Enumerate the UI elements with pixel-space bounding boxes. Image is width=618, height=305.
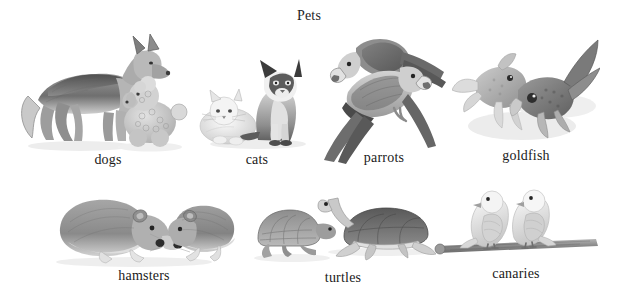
canaries-illustration [430,186,602,266]
pet-label-cats: cats [198,152,316,168]
pet-group-parrots: parrots [316,28,452,164]
turtles-illustration [248,190,438,270]
cats-illustration [198,44,316,156]
pets-illustration-board: Pets [0,0,618,305]
pet-label-dogs: dogs [18,152,198,168]
pet-label-turtles: turtles [248,270,438,286]
pet-label-parrots: parrots [316,150,452,166]
hamsters-illustration [48,186,240,270]
pet-group-goldfish: goldfish [452,34,600,164]
parrots-illustration [316,28,452,164]
pet-group-cats: cats [198,44,316,164]
pet-label-canaries: canaries [430,266,602,282]
pet-group-canaries: canaries [430,186,602,291]
pet-group-dogs: dogs [18,34,198,164]
pet-label-hamsters: hamsters [48,268,240,284]
goldfish-illustration [452,34,600,154]
pet-group-hamsters: hamsters [48,186,240,291]
dogs-illustration [18,34,198,154]
pet-label-goldfish: goldfish [452,148,600,164]
pet-group-turtles: turtles [248,190,438,291]
page-title: Pets [0,8,618,24]
